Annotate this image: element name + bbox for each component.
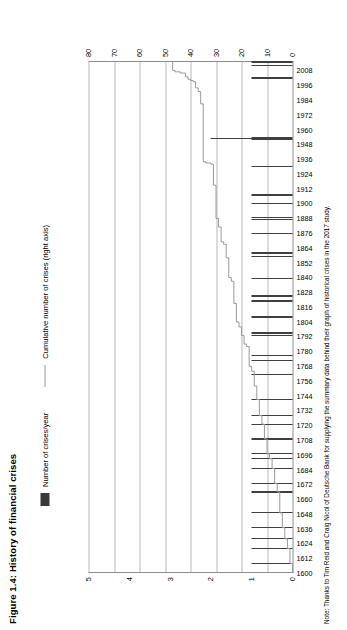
y-axis-right-tick: 20: [237, 49, 246, 57]
y-axis-right-tick: 60: [135, 49, 144, 57]
x-axis-tick: 1972: [296, 111, 312, 120]
x-axis-tick: 1756: [296, 377, 312, 386]
cumulative-line-series: [88, 62, 292, 572]
x-axis-tick: 1864: [296, 244, 312, 253]
legend-line-swatch-icon: [44, 365, 45, 387]
x-axis-tick: 1816: [296, 303, 312, 312]
x-axis-tick: 1912: [296, 185, 312, 194]
x-axis-tick: 1924: [296, 170, 312, 179]
y-axis-right-tick: 10: [262, 49, 271, 57]
figure-page: Figure 1.4: History of financial crises …: [0, 0, 347, 630]
x-axis-tick: 1984: [296, 96, 312, 105]
x-axis-tick: 1804: [296, 318, 312, 327]
x-axis-tick: 1696: [296, 451, 312, 460]
cumulative-line: [172, 62, 292, 572]
x-axis-tick: 1600: [296, 569, 312, 578]
x-axis-tick: 1996: [296, 81, 312, 90]
rotated-figure-wrapper: Figure 1.4: History of financial crises …: [0, 0, 347, 630]
x-axis-tick: 1732: [296, 406, 312, 415]
x-axis-tick: 1948: [296, 140, 312, 149]
figure-title: Figure 1.4: History of financial crises: [6, 454, 17, 624]
figure-note: Note: Thanks to Tim Reid and Craig Nicol…: [322, 206, 329, 624]
legend-label-line: Cumulative number of crises (right axis): [40, 225, 49, 359]
x-axis-tick: 1624: [296, 539, 312, 548]
x-axis-tick: 1780: [296, 347, 312, 356]
legend-item-line: Cumulative number of crises (right axis): [40, 225, 49, 387]
x-axis-tick: 1744: [296, 392, 312, 401]
x-axis-tick: 1888: [296, 214, 312, 223]
y-axis-left-tick: 1: [247, 577, 256, 581]
legend-label-bar: Number of crises/year: [40, 413, 49, 487]
x-axis-tick: 1672: [296, 480, 312, 489]
chart-legend: Number of crises/year Cumulative number …: [40, 225, 49, 506]
y-axis-left-tick: 3: [165, 577, 174, 581]
y-axis-right-tick: 30: [211, 49, 220, 57]
y-axis-left-tick: 0: [288, 577, 297, 581]
x-axis-tick: 1840: [296, 273, 312, 282]
y-axis-left-tick: 4: [124, 577, 133, 581]
x-axis-tick: 1720: [296, 421, 312, 430]
x-axis-tick: 1768: [296, 362, 312, 371]
y-axis-right-tick: 40: [186, 49, 195, 57]
x-axis-tick: 1612: [296, 554, 312, 563]
x-axis-tick: 1828: [296, 288, 312, 297]
x-axis-tick: 2008: [296, 66, 312, 75]
y-axis-right-tick: 50: [160, 49, 169, 57]
x-axis-tick: 1648: [296, 510, 312, 519]
x-axis-tick: 1876: [296, 229, 312, 238]
x-axis-tick: 1900: [296, 199, 312, 208]
legend-item-bar: Number of crises/year: [40, 413, 49, 506]
x-axis-tick: 1660: [296, 495, 312, 504]
x-axis-tick: 1960: [296, 126, 312, 135]
y-axis-right-tick: 80: [84, 49, 93, 57]
x-axis-tick: 1936: [296, 155, 312, 164]
x-axis-tick: 1792: [296, 332, 312, 341]
x-axis-tick: 1636: [296, 525, 312, 534]
y-axis-right-tick: 70: [109, 49, 118, 57]
x-axis-tick: 1684: [296, 466, 312, 475]
x-axis-tick: 1708: [296, 436, 312, 445]
plot-area: 0123450102030405060708016001612162416361…: [88, 61, 293, 573]
y-axis-left-tick: 2: [206, 577, 215, 581]
legend-bar-swatch-icon: [40, 493, 49, 506]
y-axis-right-tick: 0: [288, 53, 297, 57]
y-axis-left-tick: 5: [84, 577, 93, 581]
figure: Figure 1.4: History of financial crises …: [0, 0, 347, 630]
x-axis-tick: 1852: [296, 259, 312, 268]
